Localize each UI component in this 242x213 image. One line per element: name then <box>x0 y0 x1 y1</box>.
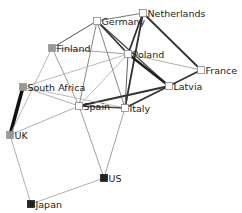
node-germany[interactable]: Germany <box>94 16 146 27</box>
node-uk[interactable]: UK <box>7 130 29 141</box>
node-label: France <box>206 65 238 76</box>
node-square-icon <box>76 103 83 110</box>
node-square-icon <box>94 18 101 25</box>
node-italy[interactable]: Italy <box>122 103 151 114</box>
node-square-icon <box>122 105 129 112</box>
node-japan[interactable]: Japan <box>28 199 63 210</box>
node-label: Germany <box>102 16 146 27</box>
node-france[interactable]: France <box>198 65 238 76</box>
node-square-icon <box>101 175 108 182</box>
node-square-icon <box>49 45 56 52</box>
node-us[interactable]: US <box>101 173 122 184</box>
node-square-icon <box>28 201 35 208</box>
edge-spain-us <box>79 106 104 178</box>
node-label: South Africa <box>28 82 86 93</box>
node-square-icon <box>20 84 27 91</box>
edge-south-africa-uk <box>10 87 23 135</box>
node-square-icon <box>125 51 132 58</box>
node-label: Latvia <box>174 81 203 92</box>
node-poland[interactable]: Poland <box>125 49 165 60</box>
nodes-layer: NetherlandsGermanyFinlandPolandFranceLat… <box>7 8 238 210</box>
edge-netherlands-france <box>143 13 201 70</box>
node-label: Finland <box>57 43 91 54</box>
edge-uk-japan <box>10 135 31 204</box>
network-diagram: NetherlandsGermanyFinlandPolandFranceLat… <box>0 0 242 213</box>
node-finland[interactable]: Finland <box>49 43 91 54</box>
node-latvia[interactable]: Latvia <box>166 81 203 92</box>
node-label: Spain <box>84 101 111 112</box>
node-square-icon <box>7 132 14 139</box>
node-label: Poland <box>133 49 165 60</box>
node-label: Netherlands <box>148 8 206 19</box>
node-label: US <box>109 173 122 184</box>
node-square-icon <box>166 83 173 90</box>
node-netherlands[interactable]: Netherlands <box>140 8 206 19</box>
edge-germany-spain <box>79 21 97 106</box>
node-label: Japan <box>35 199 63 210</box>
node-label: Italy <box>130 103 151 114</box>
node-label: UK <box>15 130 29 141</box>
node-south-africa[interactable]: South Africa <box>20 82 86 93</box>
node-square-icon <box>198 67 205 74</box>
node-spain[interactable]: Spain <box>76 101 111 112</box>
edge-italy-us <box>104 108 125 178</box>
